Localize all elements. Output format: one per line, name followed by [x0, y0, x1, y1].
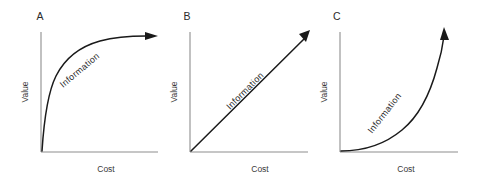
panel-c-label: C — [333, 10, 341, 22]
panel-a-label: A — [36, 10, 43, 22]
panel-c-y-axis-label: Value — [319, 81, 329, 102]
panel-c-plot: C Information Value Cost — [300, 0, 460, 188]
panel-b-label: B — [183, 10, 190, 22]
panel-a-series-label: Information — [58, 51, 101, 90]
panel-c: C Information Value Cost — [300, 0, 460, 188]
panel-c-x-axis-label: Cost — [397, 164, 415, 174]
panel-c-arrow-icon — [440, 27, 449, 40]
panel-b-plot: B Information Value Cost — [150, 0, 310, 188]
panel-a: A Information Value Cost — [0, 0, 160, 188]
panel-a-x-axis-label: Cost — [97, 164, 115, 174]
information-value-cost-figure: A Information Value Cost B Inf — [0, 0, 481, 188]
panel-b-x-axis-label: Cost — [251, 164, 269, 174]
panel-a-plot: A Information Value Cost — [0, 0, 160, 188]
panel-a-y-axis-label: Value — [20, 81, 30, 102]
panel-b-series-label: Information — [224, 70, 265, 111]
panel-c-series-label: Information — [366, 91, 404, 135]
panel-b: B Information Value Cost — [150, 0, 310, 188]
panel-b-y-axis-label: Value — [169, 81, 179, 102]
